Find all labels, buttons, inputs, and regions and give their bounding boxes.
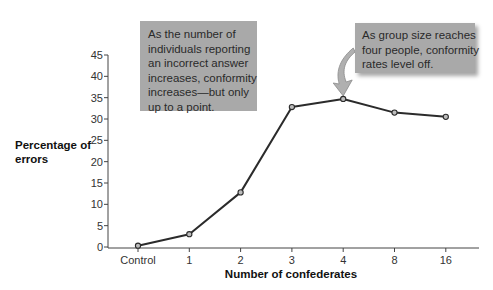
annotation-left-line: individuals reporting	[148, 42, 249, 57]
x-tick-label: 2	[238, 254, 244, 266]
y-tick-label: 30	[91, 113, 103, 125]
curved-arrow-icon	[333, 48, 355, 96]
annotation-left-line: increases, conformity	[148, 71, 249, 86]
callout-arrow	[333, 48, 355, 96]
x-tick-label: 3	[289, 254, 295, 266]
y-tick-label: 45	[91, 49, 103, 61]
data-point	[238, 190, 243, 195]
x-axis: Control1234816	[108, 248, 479, 266]
annotation-right-line: As group size reaches	[362, 28, 468, 43]
annotation-left-line: up to a point.	[148, 100, 249, 115]
annotation-left-line: an incorrect answer	[148, 56, 249, 71]
y-tick-label: 35	[91, 92, 103, 104]
annotation-right-line: four people, conformity	[362, 43, 468, 58]
x-tick-label: Control	[120, 254, 155, 266]
y-tick-label: 10	[91, 198, 103, 210]
annotation-left-line: As the number of	[148, 27, 249, 42]
data-point	[443, 114, 448, 119]
annotation-right: As group size reaches four people, confo…	[355, 23, 475, 73]
y-tick-label: 20	[91, 156, 103, 168]
x-tick-label: 4	[340, 254, 346, 266]
data-point	[135, 243, 140, 248]
annotation-right-line: rates level off.	[362, 57, 468, 72]
x-tick-label: 16	[440, 254, 452, 266]
y-tick-label: 25	[91, 134, 103, 146]
data-point	[341, 96, 346, 101]
data-series	[135, 96, 448, 248]
y-axis: 051015202530354045	[91, 49, 108, 253]
y-tick-label: 15	[91, 177, 103, 189]
y-tick-label: 0	[97, 241, 103, 253]
y-axis-title-line2: errors	[15, 153, 48, 165]
y-tick-label: 40	[91, 70, 103, 82]
data-point	[392, 110, 397, 115]
annotation-left-line: increases—but only	[148, 85, 249, 100]
x-axis-title: Number of confederates	[225, 268, 357, 280]
x-tick-label: 8	[391, 254, 397, 266]
series-line	[138, 99, 446, 246]
data-point	[187, 232, 192, 237]
y-axis-title-line1: Percentage of	[15, 139, 91, 151]
x-tick-label: 1	[186, 254, 192, 266]
y-tick-label: 5	[97, 220, 103, 232]
annotation-left: As the number of individuals reporting a…	[140, 21, 257, 111]
data-point	[289, 104, 294, 109]
